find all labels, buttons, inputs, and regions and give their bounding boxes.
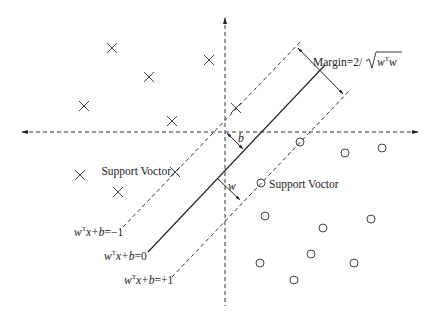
equation-positive-label: wTx+b=+1 xyxy=(124,273,174,286)
x-marker-point xyxy=(113,187,123,197)
o-marker-point xyxy=(319,224,327,232)
x-marker-point xyxy=(79,101,89,111)
x-marker-point xyxy=(231,103,241,113)
o-marker-point xyxy=(261,212,269,220)
negative-margin-line xyxy=(123,40,302,227)
o-marker-point xyxy=(296,138,304,146)
positive-class-points xyxy=(256,138,386,284)
o-marker-point xyxy=(350,259,358,267)
margin-label: Margin=2/ xyxy=(313,56,363,69)
x-marker-point xyxy=(167,116,177,126)
x-marker-point xyxy=(170,167,180,177)
o-marker-point xyxy=(256,259,264,267)
o-marker-point xyxy=(307,250,315,258)
bias-label: b xyxy=(238,132,244,144)
x-marker-point xyxy=(144,72,154,82)
x-marker-point xyxy=(75,170,85,180)
x-marker-point xyxy=(204,55,214,65)
o-marker-point xyxy=(378,144,386,152)
weight-label: w xyxy=(228,180,236,192)
o-marker-point xyxy=(341,149,349,157)
svm-diagram: Margin=2/ wTw b w Support Voctor Support… xyxy=(0,0,444,323)
o-marker-point xyxy=(367,215,375,223)
margin-radicand: wTw xyxy=(377,55,397,68)
equation-zero-label: wTx+b=0 xyxy=(104,249,147,262)
equation-negative-label: wTx+b=−1 xyxy=(74,225,124,238)
decision-hyperplane xyxy=(148,65,325,252)
support-vector-label-left: Support Voctor xyxy=(101,165,171,178)
support-vector-label-right: Support Voctor xyxy=(269,178,339,191)
x-marker-point xyxy=(107,43,117,53)
o-marker-point xyxy=(290,276,298,284)
